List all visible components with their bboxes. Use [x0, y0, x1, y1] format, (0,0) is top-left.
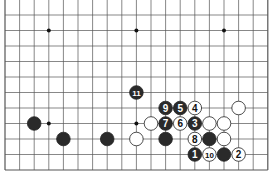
white-stone: 2 [232, 148, 246, 162]
white-stone [217, 117, 231, 131]
star-point [47, 122, 51, 126]
move-number: 7 [163, 118, 169, 129]
black-stone: 7 [159, 117, 173, 131]
star-point [222, 29, 226, 33]
move-number: 8 [192, 134, 198, 145]
black-stone [159, 132, 173, 146]
black-stone [203, 132, 217, 146]
black-stone [217, 148, 231, 162]
white-stone: 6 [173, 117, 187, 131]
white-stone [144, 117, 158, 131]
star-point [47, 29, 51, 33]
move-number: 10 [205, 151, 214, 160]
star-point [134, 122, 138, 126]
move-number: 3 [192, 118, 198, 129]
white-stone: 4 [188, 101, 202, 115]
black-stone: 9 [159, 101, 173, 115]
white-stone: 10 [203, 148, 217, 162]
move-number: 2 [236, 149, 242, 160]
black-stone: 3 [188, 117, 202, 131]
move-number: 6 [177, 118, 183, 129]
move-number: 9 [163, 103, 169, 114]
black-stone: 11 [130, 86, 144, 100]
star-point [134, 29, 138, 33]
move-number: 1 [192, 149, 198, 160]
white-stone [217, 132, 231, 146]
white-stone [130, 132, 144, 146]
go-board-diagram: 1195476381102 [0, 0, 271, 180]
white-stone [232, 101, 246, 115]
black-stone [27, 117, 41, 131]
white-stone: 8 [188, 132, 202, 146]
black-stone: 1 [188, 148, 202, 162]
black-stone [100, 132, 114, 146]
move-number: 4 [192, 103, 198, 114]
move-number: 5 [177, 103, 183, 114]
black-stone [57, 132, 71, 146]
white-stone [203, 117, 217, 131]
move-number: 11 [132, 89, 141, 98]
black-stone: 5 [173, 101, 187, 115]
